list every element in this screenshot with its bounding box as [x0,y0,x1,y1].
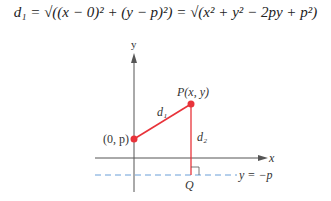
focus-point [131,136,138,143]
parabola-diagram: y x (0, p) P(x, y) Q d₁ d₂ y = −p [0,0,331,201]
y-axis-arrow-icon [131,53,137,63]
d1-label: d₁ [157,105,167,119]
x-axis-arrow-icon [258,155,268,161]
point-q-label: Q [185,178,194,192]
right-angle-marker [191,167,199,175]
d2-label: d₂ [197,130,207,144]
focus-label: (0, p) [103,132,129,146]
point-p [188,101,195,108]
y-axis-label: y [131,38,137,50]
directrix-label: y = −p [238,168,273,182]
point-p-label: P(x, y) [176,85,209,99]
x-axis-label: x [268,151,275,165]
